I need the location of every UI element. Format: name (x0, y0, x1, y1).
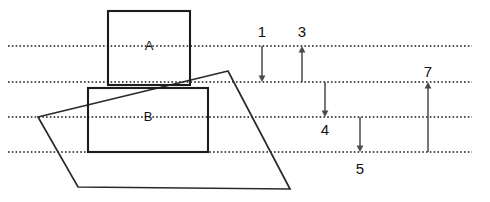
dimension-arrow-1-head (259, 76, 266, 83)
dimension-arrow-5-head (357, 146, 364, 153)
diagram-canvas: AB 13457 (0, 0, 490, 202)
reference-lines-group (8, 46, 472, 152)
dimension-arrows-group: 13457 (258, 23, 432, 177)
dimension-arrow-3-head (299, 46, 306, 53)
geometry-diagram: AB 13457 (0, 0, 490, 202)
dimension-arrow-7-head (425, 82, 432, 89)
dimension-label-1: 1 (258, 23, 266, 40)
dimension-label-7: 7 (424, 63, 432, 80)
dimension-label-3: 3 (298, 23, 306, 40)
blocks-group: AB (88, 11, 208, 152)
dimension-label-5: 5 (356, 160, 364, 177)
dimension-label-4: 4 (321, 121, 329, 138)
block-label-a: A (145, 38, 154, 53)
dimension-arrow-4-head (322, 111, 329, 118)
block-label-b: B (144, 109, 153, 124)
